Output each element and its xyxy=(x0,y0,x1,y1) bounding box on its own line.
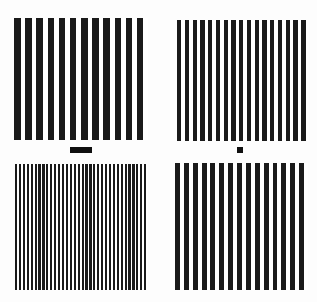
grating-stripe xyxy=(92,18,99,140)
grating-stripe xyxy=(231,20,235,141)
grating-stripe xyxy=(70,164,72,290)
grating-stripe xyxy=(228,163,233,290)
grating-stripe xyxy=(50,164,52,290)
grating-stripe xyxy=(109,164,111,290)
grating-stripe xyxy=(101,164,103,290)
grating-stripe xyxy=(121,164,123,290)
grating-stripe xyxy=(216,20,220,141)
grating-stripe xyxy=(140,164,142,290)
grating-stripe xyxy=(74,164,76,290)
grating-stripe xyxy=(70,18,77,140)
grating-stripe xyxy=(255,163,260,290)
grating-stripe-group xyxy=(177,20,309,141)
grating-stripe xyxy=(46,164,48,290)
stimulus-canvas xyxy=(0,0,317,302)
grating-stripe xyxy=(255,20,259,141)
bottom-left-grating xyxy=(15,164,148,290)
grating-stripe xyxy=(278,20,282,141)
grating-stripe xyxy=(103,18,110,140)
grating-stripe xyxy=(15,164,17,290)
grating-stripe xyxy=(54,164,56,290)
grating-stripe xyxy=(175,163,180,290)
grating-stripe xyxy=(177,20,181,141)
grating-stripe xyxy=(115,18,122,140)
grating-stripe xyxy=(247,20,251,141)
grating-stripe xyxy=(193,20,197,141)
grating-stripe xyxy=(113,164,115,290)
grating-stripe-group xyxy=(15,164,148,290)
grating-stripe xyxy=(36,18,43,140)
grating-stripe xyxy=(42,164,44,290)
grating-stripe xyxy=(126,18,133,140)
grating-stripe xyxy=(97,164,99,290)
grating-stripe xyxy=(270,20,274,141)
grating-stripe xyxy=(59,18,66,140)
grating-stripe xyxy=(58,164,60,290)
grating-stripe xyxy=(219,163,224,290)
grating-stripe xyxy=(224,20,228,141)
grating-stripe xyxy=(239,20,243,141)
grating-stripe xyxy=(264,163,269,290)
grating-stripe xyxy=(262,20,266,141)
grating-stripe xyxy=(293,20,297,141)
grating-stripe xyxy=(193,163,198,290)
grating-stripe xyxy=(137,18,144,140)
grating-stripe xyxy=(210,163,215,290)
grating-stripe xyxy=(144,164,146,290)
grating-stripe xyxy=(208,20,212,141)
grating-stripe xyxy=(184,163,189,290)
grating-stripe xyxy=(31,164,33,290)
grating-stripe xyxy=(125,164,127,290)
grating-stripe-group xyxy=(14,18,148,140)
grating-stripe xyxy=(66,164,68,290)
grating-stripe xyxy=(19,164,21,290)
grating-stripe xyxy=(105,164,107,290)
grating-stripe xyxy=(301,20,305,141)
grating-stripe xyxy=(202,163,207,290)
grating-stripe xyxy=(27,164,29,290)
grating-stripe xyxy=(85,164,87,290)
grating-stripe xyxy=(35,164,37,290)
bottom-right-grating xyxy=(175,163,308,290)
grating-stripe xyxy=(136,164,138,290)
grating-stripe xyxy=(25,18,32,140)
grating-stripe xyxy=(117,164,119,290)
left-reference-bar xyxy=(70,147,92,153)
grating-stripe xyxy=(200,20,204,141)
grating-stripe xyxy=(290,163,295,290)
grating-stripe xyxy=(89,164,91,290)
grating-stripe xyxy=(185,20,189,141)
grating-stripe xyxy=(48,18,55,140)
grating-stripe xyxy=(273,163,278,290)
grating-stripe xyxy=(78,164,80,290)
grating-stripe xyxy=(286,20,290,141)
grating-stripe xyxy=(38,164,40,290)
top-right-grating xyxy=(177,20,309,141)
grating-stripe xyxy=(128,164,130,290)
grating-stripe xyxy=(281,163,286,290)
right-reference-square xyxy=(237,147,243,153)
grating-stripe xyxy=(299,163,304,290)
grating-stripe xyxy=(246,163,251,290)
top-left-grating xyxy=(14,18,148,140)
grating-stripe xyxy=(82,164,84,290)
grating-stripe xyxy=(132,164,134,290)
grating-stripe xyxy=(62,164,64,290)
grating-stripe xyxy=(237,163,242,290)
grating-stripe xyxy=(14,18,21,140)
grating-stripe xyxy=(93,164,95,290)
grating-stripe xyxy=(81,18,88,140)
grating-stripe-group xyxy=(175,163,308,290)
grating-stripe xyxy=(23,164,25,290)
